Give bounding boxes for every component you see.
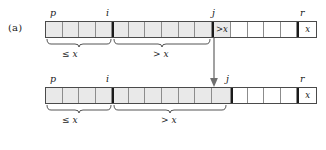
brace-gt-x-top-label: > x bbox=[153, 50, 168, 59]
partition-figure: (a) p i j r >x x ≤ x > x bbox=[0, 0, 326, 150]
cell bbox=[46, 22, 63, 37]
brace-le-x-bottom bbox=[46, 105, 112, 112]
array-top: >x x bbox=[45, 21, 317, 38]
cell bbox=[231, 22, 248, 37]
bottom-label-r: r bbox=[300, 74, 305, 84]
brace-gt-x-bottom bbox=[113, 105, 227, 112]
brace-le-x-top bbox=[46, 39, 112, 46]
cell bbox=[162, 22, 179, 37]
cell bbox=[129, 88, 146, 103]
cell bbox=[179, 22, 196, 37]
top-label-j: j bbox=[212, 8, 215, 18]
cell-pivot: x bbox=[297, 88, 316, 103]
cell bbox=[179, 88, 196, 103]
cell-text: x bbox=[305, 91, 310, 100]
brace-le-x-top-label: ≤ x bbox=[62, 50, 77, 59]
cell bbox=[281, 88, 298, 103]
cell bbox=[248, 22, 265, 37]
brace-gt-x-top bbox=[113, 39, 211, 46]
cell bbox=[129, 22, 146, 37]
cell bbox=[264, 88, 281, 103]
cell bbox=[264, 22, 281, 37]
cell-j bbox=[231, 88, 248, 103]
bottom-label-i: i bbox=[106, 74, 109, 84]
cell bbox=[112, 22, 129, 37]
cell bbox=[195, 22, 212, 37]
bottom-label-p: p bbox=[50, 74, 56, 84]
cell-text: >x bbox=[216, 25, 228, 34]
cell bbox=[46, 88, 63, 103]
cell bbox=[112, 88, 129, 103]
cell bbox=[79, 22, 96, 37]
transition-arrow bbox=[208, 38, 222, 88]
cell-pivot: x bbox=[297, 22, 316, 37]
cell bbox=[63, 22, 80, 37]
cell bbox=[145, 22, 162, 37]
cell bbox=[162, 88, 179, 103]
brace-gt-x-bottom-label: > x bbox=[161, 116, 176, 125]
array-bottom: x bbox=[45, 87, 317, 104]
cell bbox=[281, 22, 298, 37]
bottom-label-j: j bbox=[226, 74, 229, 84]
top-label-p: p bbox=[50, 8, 56, 18]
cell bbox=[96, 22, 113, 37]
top-label-r: r bbox=[300, 8, 305, 18]
cell bbox=[63, 88, 80, 103]
part-label: (a) bbox=[8, 22, 22, 33]
cell bbox=[212, 88, 231, 103]
cell-text: x bbox=[305, 25, 310, 34]
cell bbox=[96, 88, 113, 103]
brace-le-x-bottom-label: ≤ x bbox=[62, 116, 77, 125]
cell bbox=[145, 88, 162, 103]
cell bbox=[195, 88, 212, 103]
cell-j: >x bbox=[212, 22, 232, 37]
cell bbox=[248, 88, 265, 103]
top-label-i: i bbox=[106, 8, 109, 18]
cell bbox=[79, 88, 96, 103]
